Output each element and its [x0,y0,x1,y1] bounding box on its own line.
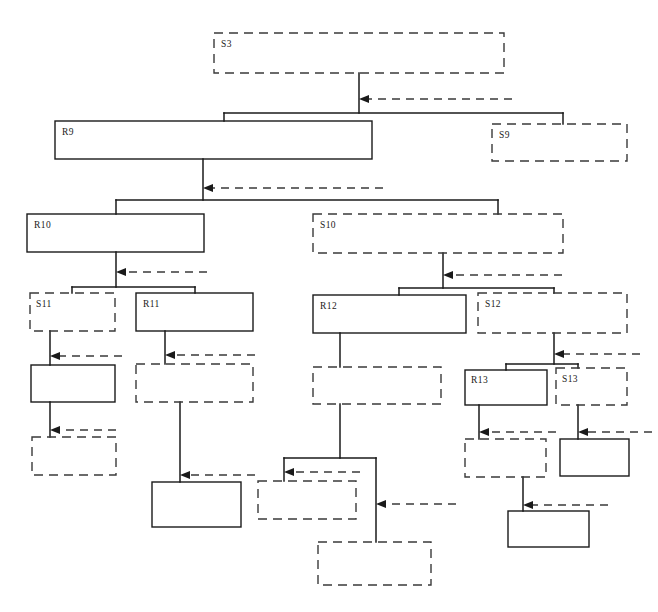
node-label-s11: S11 [36,299,52,309]
node-S11[interactable]: S11 [30,293,115,331]
arrow-head-n8 [180,471,190,479]
node-box-s9[interactable] [492,124,627,161]
arrow-head-r13 [479,428,489,436]
node-unlabeled-3[interactable] [313,367,441,404]
node-label-s12: S12 [485,299,501,309]
arrow-head-s11 [50,352,60,360]
node-unlabeled-10[interactable] [318,542,431,585]
node-unlabeled-8[interactable] [152,482,241,527]
node-box-n1[interactable] [31,365,115,402]
arrow-head-n1 [50,426,60,434]
node-R12[interactable]: R12 [313,295,466,333]
node-box-s3[interactable] [214,33,504,73]
node-R10[interactable]: R10 [27,214,204,252]
diagram-svg: S3 R9 S9 R10 S10 S11 R11 R12 [0,0,658,612]
diagram-canvas: S3 R9 S9 R10 S10 S11 R11 R12 [0,0,658,612]
node-S9[interactable]: S9 [492,124,627,161]
node-unlabeled-5[interactable] [465,439,546,477]
node-label-s10: S10 [320,220,336,230]
arrow-head-s12 [554,350,564,358]
node-unlabeled-9[interactable] [508,511,589,547]
node-box-n3[interactable] [313,367,441,404]
node-unlabeled-6[interactable] [560,439,629,476]
node-label-s13: S13 [562,374,578,384]
node-box-r9[interactable] [55,121,372,159]
node-box-n7[interactable] [258,481,356,519]
arrow-head-r11 [165,351,175,359]
node-unlabeled-2[interactable] [136,364,253,402]
node-box-s10[interactable] [313,214,563,253]
node-label-r10: R10 [34,220,51,230]
node-label-r9: R9 [62,127,74,137]
node-R9[interactable]: R9 [55,121,372,159]
node-R13[interactable]: R13 [465,370,547,405]
node-box-n8[interactable] [152,482,241,527]
arrow-head-s13 [578,428,588,436]
arrow-head-n9 [523,501,533,509]
node-S12[interactable]: S12 [478,293,627,333]
node-box-n2[interactable] [136,364,253,402]
arrow-head-r10 [116,268,126,276]
node-label-r13: R13 [471,375,488,385]
node-label-r12: R12 [320,301,337,311]
node-label-s9: S9 [499,130,510,140]
node-box-n4[interactable] [32,437,116,475]
node-unlabeled-7[interactable] [258,481,356,519]
node-label-s3: S3 [221,39,232,49]
node-S10[interactable]: S10 [313,214,563,253]
node-label-r11: R11 [143,299,160,309]
arrow-head-n7 [284,468,294,476]
arrow-head-n10 [376,500,386,508]
node-box-n9[interactable] [508,511,589,547]
node-box-n5[interactable] [465,439,546,477]
node-box-n6[interactable] [560,439,629,476]
node-box-n10[interactable] [318,542,431,585]
node-S3[interactable]: S3 [214,33,504,73]
feedback-arrows [50,95,652,509]
node-unlabeled-4[interactable] [32,437,116,475]
node-R11[interactable]: R11 [136,293,253,331]
node-S13[interactable]: S13 [556,368,627,405]
arrow-head-s3 [359,95,369,103]
arrow-head-s10 [443,271,453,279]
node-box-r10[interactable] [27,214,204,252]
arrow-head-r9 [203,184,213,192]
node-unlabeled-1[interactable] [31,365,115,402]
